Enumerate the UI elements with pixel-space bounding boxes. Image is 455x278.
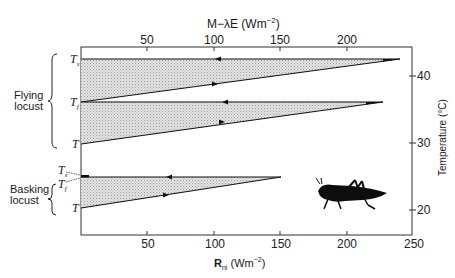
bottom-axis-title: Rni (Wm−2) (214, 256, 265, 271)
right-tick-30: 30 (417, 137, 430, 149)
basking-t-label: T (72, 202, 79, 214)
flying-tf-label: Tf (70, 96, 79, 111)
top-tick-200: 200 (337, 34, 357, 46)
basking-tf-label: Tf (58, 178, 67, 193)
top-tick-150: 150 (270, 34, 290, 46)
basking-brace (48, 184, 56, 215)
top-tick-50: 50 (140, 34, 153, 46)
chart-canvas (0, 0, 455, 278)
basking-locust-label: Basking locust (10, 184, 49, 206)
top-axis-title: M−λE (Wm−2) (207, 17, 280, 30)
flying-t-label: T (72, 138, 79, 150)
locust-icon (316, 178, 387, 209)
bottom-tick-150: 150 (271, 238, 291, 250)
right-tick-20: 20 (417, 204, 430, 216)
right-tick-40: 40 (417, 70, 430, 82)
flying-brace (48, 54, 57, 148)
right-axis-title: Temperature (°C) (437, 99, 448, 176)
bottom-tick-200: 200 (337, 238, 357, 250)
flying-ts-label: Ts (70, 53, 79, 68)
bottom-tick-100: 100 (205, 238, 225, 250)
bottom-tick-50: 50 (141, 238, 154, 250)
flying-locust-label: Flying locust (14, 90, 43, 112)
top-tick-100: 100 (204, 34, 224, 46)
bottom-tick-250: 250 (404, 238, 424, 250)
